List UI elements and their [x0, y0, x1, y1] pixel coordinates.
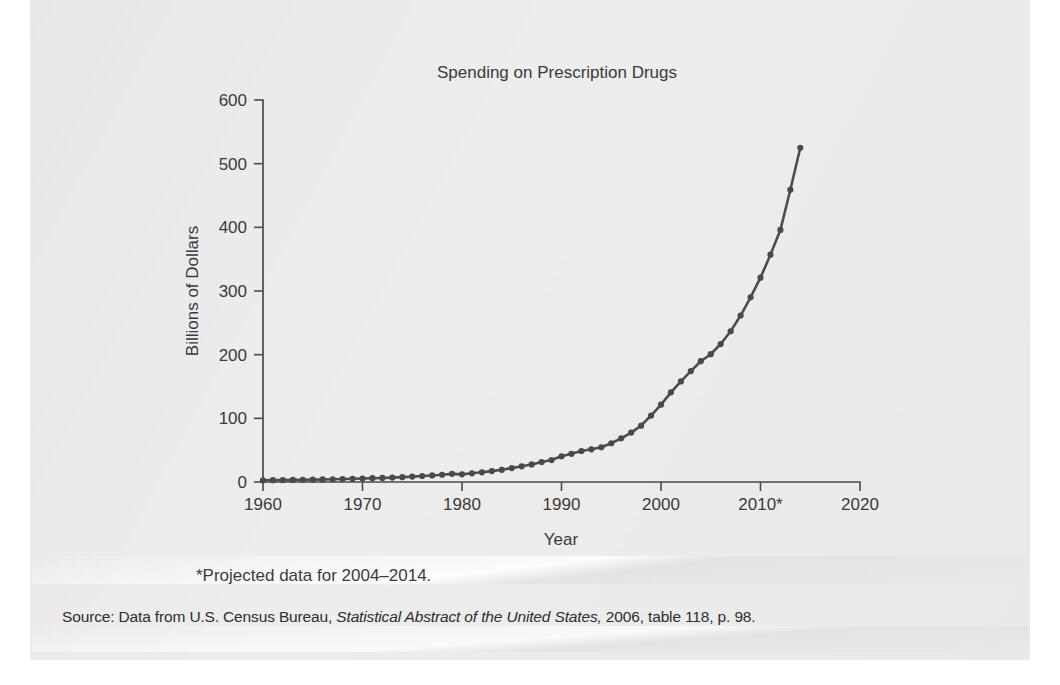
data-point-marker	[379, 475, 385, 481]
y-tick-label: 300	[219, 282, 247, 301]
x-tick-label: 1970	[344, 495, 382, 514]
data-point-marker	[359, 475, 365, 481]
data-point-marker	[330, 476, 336, 482]
line-chart: Spending on Prescription Drugs Billions …	[0, 0, 1060, 685]
figure-page: Spending on Prescription Drugs Billions …	[0, 0, 1060, 685]
data-point-marker	[489, 468, 495, 474]
data-point-marker	[678, 378, 684, 384]
data-point-marker	[320, 476, 326, 482]
data-point-marker	[519, 463, 525, 469]
data-point-marker	[369, 475, 375, 481]
data-point-marker	[598, 444, 604, 450]
data-point-marker	[608, 440, 614, 446]
data-point-marker	[688, 368, 694, 374]
x-axis-label: Year	[544, 530, 579, 549]
data-point-marker	[449, 471, 455, 477]
data-point-marker	[568, 451, 574, 457]
data-point-marker	[628, 429, 634, 435]
data-point-marker	[280, 477, 286, 483]
data-point-marker	[747, 294, 753, 300]
data-point-marker	[708, 351, 714, 357]
source-citation: Source: Data from U.S. Census Bureau, St…	[62, 608, 756, 626]
data-point-marker	[429, 472, 435, 478]
data-point-marker	[728, 328, 734, 334]
data-point-marker	[777, 227, 783, 233]
data-point-marker	[419, 473, 425, 479]
x-tick-label: 1990	[543, 495, 581, 514]
chart-footnote: *Projected data for 2004–2014.	[196, 566, 431, 586]
x-tick-label: 2000	[642, 495, 680, 514]
source-prefix: Source: Data from U.S. Census Bureau,	[62, 608, 336, 625]
data-point-marker	[767, 252, 773, 258]
data-point-marker	[439, 472, 445, 478]
x-tick-label: 2020	[841, 495, 879, 514]
data-point-marker	[548, 457, 554, 463]
data-point-marker	[499, 467, 505, 473]
data-point-marker	[757, 275, 763, 281]
x-tick-label: 2010*	[738, 495, 783, 514]
data-point-marker	[469, 470, 475, 476]
data-point-marker	[797, 145, 803, 151]
data-point-marker	[787, 187, 793, 193]
data-point-marker	[399, 474, 405, 480]
data-point-marker	[270, 477, 276, 483]
data-point-marker	[588, 446, 594, 452]
x-tick-label: 1980	[443, 495, 481, 514]
data-point-marker	[648, 412, 654, 418]
data-point-marker	[718, 341, 724, 347]
source-publication-title: Statistical Abstract of the United State…	[336, 608, 601, 625]
data-point-marker	[340, 476, 346, 482]
chart-figure: Spending on Prescription Drugs Billions …	[0, 0, 1060, 685]
data-point-marker	[409, 473, 415, 479]
x-axis-ticks: 196019701980199020002010*2020	[244, 482, 879, 514]
data-point-marker	[578, 448, 584, 454]
data-point-marker	[300, 477, 306, 483]
data-point-marker	[310, 477, 316, 483]
data-point-marker	[668, 389, 674, 395]
data-line	[263, 148, 800, 481]
data-point-marker	[389, 475, 395, 481]
data-point-marker	[638, 423, 644, 429]
data-point-marker	[509, 465, 515, 471]
data-point-marker	[658, 402, 664, 408]
data-point-marker	[479, 469, 485, 475]
y-tick-label: 0	[238, 473, 247, 492]
data-markers	[260, 145, 804, 484]
data-point-marker	[290, 477, 296, 483]
data-point-marker	[738, 312, 744, 318]
y-tick-label: 500	[219, 155, 247, 174]
data-point-marker	[529, 461, 535, 467]
y-tick-label: 100	[219, 409, 247, 428]
data-point-marker	[539, 459, 545, 465]
y-tick-label: 400	[219, 218, 247, 237]
data-point-marker	[698, 358, 704, 364]
chart-title: Spending on Prescription Drugs	[437, 63, 677, 82]
y-axis-label: Billions of Dollars	[183, 226, 202, 356]
data-point-marker	[260, 477, 266, 483]
y-axis-ticks: 0100200300400500600	[219, 91, 263, 492]
data-point-marker	[349, 476, 355, 482]
source-suffix: 2006, table 118, p. 98.	[602, 608, 756, 625]
data-point-marker	[618, 435, 624, 441]
data-point-marker	[558, 453, 564, 459]
x-tick-label: 1960	[244, 495, 282, 514]
y-tick-label: 600	[219, 91, 247, 110]
y-tick-label: 200	[219, 346, 247, 365]
data-point-marker	[459, 471, 465, 477]
